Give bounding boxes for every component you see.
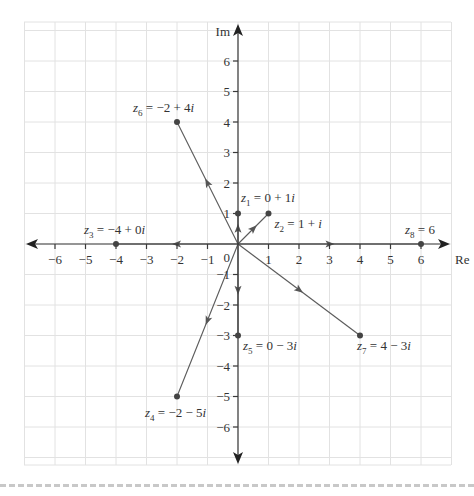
label-z6: z6 = −2 + 4i xyxy=(132,100,195,118)
real-axis-label: Re xyxy=(455,252,470,267)
x-tick-label: −5 xyxy=(79,252,93,267)
y-tick-label: 5 xyxy=(224,84,231,99)
y-tick-label: 2 xyxy=(224,176,231,191)
point-z1 xyxy=(235,211,241,217)
x-tick-label: 4 xyxy=(357,252,364,267)
y-tick-label: −4 xyxy=(216,359,230,374)
y-tick-label: 1 xyxy=(224,206,231,221)
point-z8 xyxy=(418,241,424,247)
x-tick-label: 1 xyxy=(265,252,272,267)
point-z5 xyxy=(235,333,241,339)
x-tick-label: −2 xyxy=(170,252,184,267)
point-z4 xyxy=(174,394,180,400)
label-z4: z4 = −2 − 5i xyxy=(144,405,207,423)
y-tick-label: −2 xyxy=(216,298,230,313)
origin-label: 0 xyxy=(224,250,231,265)
axes xyxy=(26,24,450,464)
point-labels: z1 = 0 + 1iz2 = 1 + iz3 = −4 + 0iz4 = −2… xyxy=(83,100,435,423)
point-z2 xyxy=(266,211,272,217)
imag-axis-label: Im xyxy=(216,24,230,39)
y-tick-label: 4 xyxy=(224,115,231,130)
y-tick-label: −6 xyxy=(216,420,230,435)
label-z3: z3 = −4 + 0i xyxy=(83,222,146,240)
label-z2: z2 = 1 + i xyxy=(274,216,323,234)
label-z5: z5 = 0 − 3i xyxy=(242,338,297,356)
point-z6 xyxy=(174,119,180,125)
x-tick-label: 3 xyxy=(326,252,333,267)
x-tick-label: −4 xyxy=(109,252,123,267)
x-tick-label: 6 xyxy=(418,252,425,267)
x-tick-label: −6 xyxy=(48,252,62,267)
x-tick-label: 2 xyxy=(296,252,303,267)
x-tick-label: −3 xyxy=(140,252,154,267)
y-tick-label: 6 xyxy=(224,54,231,69)
x-tick-label: −1 xyxy=(201,252,215,267)
y-tick-label: −1 xyxy=(216,267,230,282)
x-tick-label: 5 xyxy=(387,252,394,267)
y-tick-label: −3 xyxy=(216,328,230,343)
label-z1: z1 = 0 + 1i xyxy=(240,190,295,208)
complex-plane-diagram: −6−5−4−3−2−1123456−6−5−4−3−2−11234560ReI… xyxy=(0,0,474,480)
label-z8: z8 = 6 xyxy=(404,222,435,240)
y-tick-label: 3 xyxy=(224,145,231,160)
point-z3 xyxy=(113,241,119,247)
y-tick-label: −5 xyxy=(216,389,230,404)
label-z7: z7 = 4 − 3i xyxy=(356,338,411,356)
dashed-divider xyxy=(0,484,474,487)
